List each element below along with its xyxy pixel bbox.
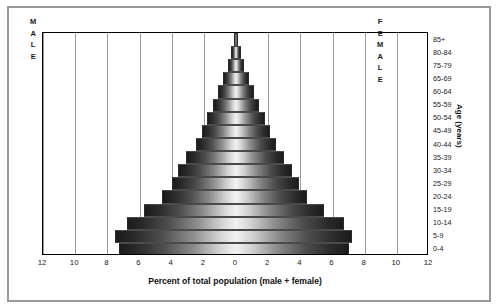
- y-tick-50-54: 50-54: [433, 113, 451, 122]
- bar-male-60-64: [218, 85, 236, 98]
- bar-row: [43, 72, 427, 85]
- y-tick-60-64: 60-64: [433, 87, 451, 96]
- x-tick-5: 2: [201, 258, 205, 267]
- y-tick-0-4: 0-4: [433, 244, 443, 253]
- bar-female-80-84: [236, 46, 241, 59]
- bar-female-10-14: [236, 217, 344, 230]
- male-letter-3: E: [31, 51, 36, 63]
- bar-male-55-59: [213, 99, 236, 112]
- bar-row: [43, 164, 427, 177]
- bar-row: [43, 243, 427, 255]
- bar-female-5-9: [236, 230, 352, 243]
- x-tick-7: 2: [265, 258, 269, 267]
- bar-female-0-4: [236, 243, 349, 255]
- y-tick-75-79: 75-79: [433, 60, 451, 69]
- bar-female-55-59: [236, 99, 259, 112]
- x-tick-6: 0: [233, 258, 237, 267]
- y-tick-10-14: 10-14: [433, 218, 451, 227]
- x-tick-11: 10: [391, 258, 400, 267]
- bar-male-40-44: [196, 138, 236, 151]
- bar-row: [43, 230, 427, 243]
- bar-row: [43, 217, 427, 230]
- x-tick-9: 6: [329, 258, 333, 267]
- bar-female-25-29: [236, 177, 299, 190]
- bar-female-60-64: [236, 85, 254, 98]
- bar-row: [43, 59, 427, 72]
- bar-female-45-49: [236, 125, 270, 138]
- bar-male-0-4: [119, 243, 236, 255]
- y-tick-25-29: 25-29: [433, 178, 451, 187]
- female-letter-5: E: [378, 74, 383, 86]
- x-tick-12: 12: [424, 258, 433, 267]
- bar-male-30-34: [178, 164, 236, 177]
- x-tick-0: 12: [38, 258, 47, 267]
- bar-female-15-19: [236, 204, 324, 217]
- bar-male-45-49: [202, 125, 236, 138]
- bar-male-35-39: [186, 151, 236, 164]
- x-axis-title: Percent of total population (male + fema…: [42, 276, 428, 286]
- bar-male-10-14: [127, 217, 236, 230]
- male-letter-1: A: [30, 28, 36, 40]
- bar-female-75-79: [236, 59, 244, 72]
- y-axis-title: Age (years): [455, 104, 464, 148]
- bar-female-35-39: [236, 151, 284, 164]
- bar-row: [43, 151, 427, 164]
- bar-male-25-29: [172, 177, 236, 190]
- male-letter-0: M: [30, 16, 36, 28]
- bar-male-15-19: [144, 204, 236, 217]
- bar-male-75-79: [228, 59, 236, 72]
- x-tick-2: 8: [104, 258, 108, 267]
- bar-female-30-34: [236, 164, 292, 177]
- bar-row: [43, 125, 427, 138]
- y-tick-40-44: 40-44: [433, 139, 451, 148]
- legend-label-male: MALE: [30, 16, 36, 62]
- female-letter-0: F: [378, 16, 383, 28]
- y-tick-80-84: 80-84: [433, 47, 451, 56]
- bar-row: [43, 112, 427, 125]
- y-tick-20-24: 20-24: [433, 191, 451, 200]
- female-letter-2: M: [377, 39, 383, 51]
- bar-female-50-54: [236, 112, 265, 125]
- x-tick-4: 4: [168, 258, 172, 267]
- bar-male-20-24: [162, 190, 236, 203]
- plot-area: [42, 32, 428, 255]
- y-tick-30-34: 30-34: [433, 165, 451, 174]
- y-tick-55-59: 55-59: [433, 100, 451, 109]
- male-letter-2: L: [31, 39, 36, 51]
- y-tick-35-39: 35-39: [433, 152, 451, 161]
- bar-row: [43, 85, 427, 98]
- bar-row: [43, 190, 427, 203]
- y-tick-65-69: 65-69: [433, 73, 451, 82]
- bar-female-65-69: [236, 72, 249, 85]
- female-letter-4: L: [378, 62, 383, 74]
- x-tick-8: 4: [297, 258, 301, 267]
- bar-female-40-44: [236, 138, 276, 151]
- y-tick-15-19: 15-19: [433, 205, 451, 214]
- female-letter-3: A: [377, 51, 383, 63]
- bar-male-50-54: [207, 112, 236, 125]
- bar-row: [43, 204, 427, 217]
- x-tick-10: 8: [361, 258, 365, 267]
- y-axis-tick-labels: 85+80-8475-7965-6960-6455-5950-5445-4940…: [430, 32, 474, 255]
- y-tick-45-49: 45-49: [433, 126, 451, 135]
- figure-frame: MALE FEMALE 85+80-8475-7965-6960-6455-59…: [7, 6, 491, 302]
- bar-male-65-69: [223, 72, 236, 85]
- bar-row: [43, 177, 427, 190]
- x-tick-3: 6: [136, 258, 140, 267]
- bar-row: [43, 138, 427, 151]
- y-tick-85+: 85+: [433, 34, 445, 43]
- bar-row: [43, 46, 427, 59]
- legend-label-female: FEMALE: [377, 16, 383, 85]
- x-tick-1: 10: [70, 258, 79, 267]
- x-axis-tick-labels: 12108642024681012: [42, 258, 428, 270]
- bar-row: [43, 33, 427, 46]
- female-letter-1: E: [378, 28, 383, 40]
- bar-row: [43, 99, 427, 112]
- bar-male-5-9: [115, 230, 236, 243]
- y-tick-5-9: 5-9: [433, 231, 443, 240]
- bar-female-85+: [236, 33, 238, 46]
- bar-female-20-24: [236, 190, 307, 203]
